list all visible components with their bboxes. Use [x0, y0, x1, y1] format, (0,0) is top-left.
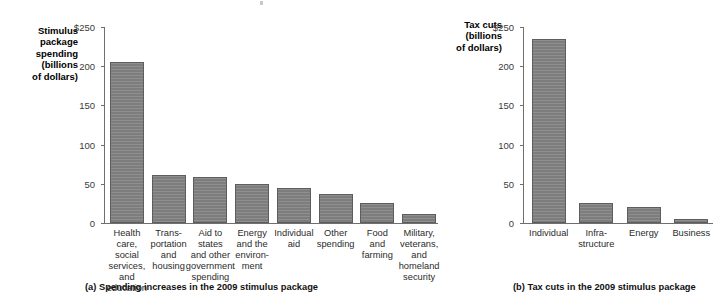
bar: [193, 177, 227, 223]
y-tick-label-200: 200: [79, 62, 95, 72]
y-tick-label-50: 50: [503, 180, 514, 190]
bar: [319, 194, 353, 223]
y-tick-label-0: 0: [509, 219, 514, 229]
y-tick-label-100: 100: [498, 141, 514, 151]
bar: [402, 214, 436, 223]
plot-area-taxcuts: 050100150200$250 IndividualInfra- struct…: [523, 27, 713, 224]
y-tick-label-50: 50: [84, 180, 95, 190]
bar: [532, 39, 566, 223]
bar: [110, 62, 144, 223]
bar: [152, 175, 186, 223]
y-tick-label-100: 100: [79, 141, 95, 151]
y-tick-0: 0: [101, 223, 105, 224]
y-tick-label-250: $250: [74, 23, 95, 33]
stimulus-package-figure: Stimulus package spending (billions of d…: [0, 0, 724, 299]
y-tick-label-200: 200: [498, 62, 514, 72]
y-tick-label-250: $250: [493, 23, 514, 33]
bar-series-spending: [105, 27, 438, 223]
y-tick-label-150: 150: [498, 102, 514, 112]
y-tick-0: 0: [520, 223, 524, 224]
panel-caption-b: (b) Tax cuts in the 2009 stimulus packag…: [513, 282, 696, 292]
y-tick-label-0: 0: [90, 219, 95, 229]
bar: [579, 203, 613, 223]
plot-area-spending: 050100150200$250 Health care, social ser…: [104, 27, 438, 224]
bar-series-taxcuts: [524, 27, 713, 223]
y-axis-title-spending: Stimulus package spending (billions of d…: [0, 25, 78, 82]
bar: [674, 219, 708, 223]
bar: [627, 207, 661, 223]
x-axis-category-label: Business: [664, 228, 720, 239]
chart-panel-spending: Stimulus package spending (billions of d…: [0, 0, 462, 299]
bar: [235, 184, 269, 223]
x-axis-category-label: Military, veterans, and homeland securit…: [394, 228, 444, 283]
bar: [277, 188, 311, 223]
y-tick-label-150: 150: [79, 102, 95, 112]
panel-caption-a: (a) Spending increases in the 2009 stimu…: [85, 282, 318, 292]
bar: [360, 203, 394, 223]
